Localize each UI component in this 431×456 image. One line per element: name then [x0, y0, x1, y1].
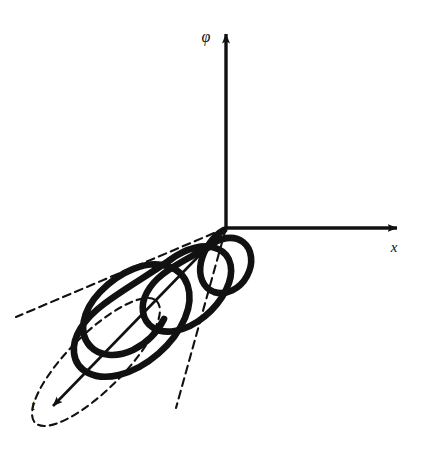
- axis-label-x: x: [390, 239, 398, 255]
- figure-canvas: φ x t: [0, 0, 431, 456]
- axes-group: [53, 34, 397, 406]
- conical-spiral-diagram: φ x t: [0, 0, 431, 456]
- conical-spiral-curve: [74, 230, 251, 377]
- spiral-turn-3: [74, 260, 190, 377]
- axis-labels-group: φ x t: [31, 28, 398, 413]
- axis-label-phi: φ: [202, 28, 211, 46]
